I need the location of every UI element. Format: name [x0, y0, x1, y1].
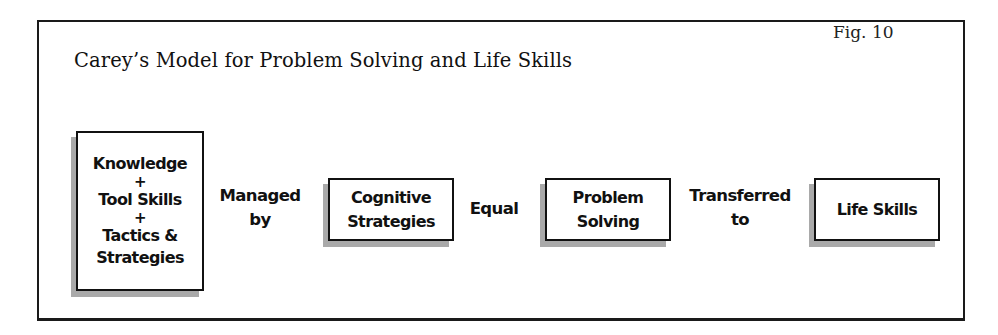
plus-sign: + — [134, 175, 146, 189]
figure-number: Fig. 10 — [833, 22, 894, 42]
box-line: Tactics & — [102, 225, 177, 247]
box-line: Knowledge — [93, 153, 187, 175]
connector-line: Transferred — [689, 184, 790, 208]
box-line: Problem — [573, 186, 644, 210]
box-line: Cognitive — [351, 186, 431, 210]
equal-connector: Equal — [458, 196, 530, 222]
connector-line: Managed — [219, 184, 300, 208]
managed-by-connector: Managed by — [206, 183, 314, 233]
box-line: Tool Skills — [98, 189, 181, 211]
problem-solving-box: Problem Solving — [545, 178, 671, 241]
plus-sign: + — [134, 211, 146, 225]
box-line: Life Skills — [837, 198, 918, 222]
connector-line: to — [731, 208, 749, 232]
cognitive-strategies-box: Cognitive Strategies — [328, 178, 454, 241]
connector-line: Equal — [470, 197, 519, 221]
box-line: Strategies — [347, 210, 435, 234]
connector-line: by — [249, 208, 270, 232]
box-line: Strategies — [96, 247, 184, 269]
life-skills-box: Life Skills — [814, 178, 940, 241]
knowledge-skills-box: Knowledge + Tool Skills + Tactics & Stra… — [76, 131, 204, 291]
box-line: Solving — [577, 210, 640, 234]
transferred-to-connector: Transferred to — [672, 183, 808, 233]
figure-title: Carey’s Model for Problem Solving and Li… — [74, 49, 572, 72]
